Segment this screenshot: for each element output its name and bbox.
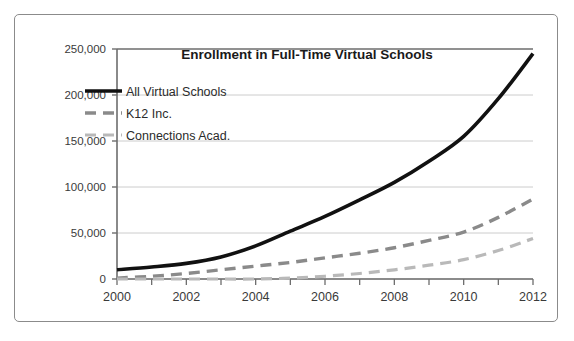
gridlines	[117, 49, 533, 279]
chart-legend: All Virtual SchoolsK12 Inc.Connections A…	[85, 85, 230, 143]
figure-root: 050,000100,000150,000200,000250,000 2000…	[0, 0, 574, 341]
x-tick-label: 2010	[450, 290, 478, 304]
x-tick-label: 2000	[103, 290, 131, 304]
y-tick-label: 0	[100, 273, 106, 285]
legend-label-0: All Virtual Schools	[126, 85, 227, 99]
y-axis-tick-labels: 050,000100,000150,000200,000250,000	[64, 43, 106, 285]
series-line-1	[117, 199, 533, 278]
x-tick-label: 2012	[519, 290, 547, 304]
legend-label-2: Connections Acad.	[126, 129, 230, 143]
chart-border-frame: 050,000100,000150,000200,000250,000 2000…	[14, 14, 558, 322]
legend-label-1: K12 Inc.	[126, 107, 172, 121]
x-tick-label: 2008	[380, 290, 408, 304]
line-chart: 050,000100,000150,000200,000250,000 2000…	[15, 15, 556, 320]
y-tick-label: 50,000	[71, 227, 106, 239]
y-tick-label: 250,000	[64, 43, 106, 55]
y-tick-label: 100,000	[64, 181, 106, 193]
chart-title: Enrollment in Full-Time Virtual Schools	[181, 47, 433, 62]
x-tick-label: 2002	[172, 290, 200, 304]
x-axis-tick-labels: 2000200220042006200820102012	[103, 290, 547, 304]
x-tick-label: 2006	[311, 290, 339, 304]
x-tick-label: 2004	[242, 290, 270, 304]
y-tick-label: 150,000	[64, 135, 106, 147]
